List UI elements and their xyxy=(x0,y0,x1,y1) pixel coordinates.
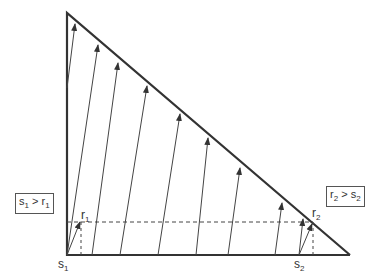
triangle-diagram: r1 r2 s1 s2 xyxy=(0,0,378,275)
arrow-icon xyxy=(228,168,240,255)
arrow-icon xyxy=(67,24,75,88)
triangle-outline xyxy=(67,13,350,255)
vector-arrows xyxy=(67,24,312,255)
label-s1: s1 xyxy=(58,257,69,273)
arrow-icon xyxy=(196,138,208,255)
triangle-edges xyxy=(67,13,350,255)
arrow-icon xyxy=(158,114,180,255)
condition-box-s1-gt-r1: s1 > r1 xyxy=(15,193,54,214)
condition-box-r2-gt-s2: r2 > s2 xyxy=(326,186,365,207)
label-r2: r2 xyxy=(312,206,321,222)
label-s2: s2 xyxy=(294,257,305,273)
arrow-icon xyxy=(120,86,147,255)
box-left-b-sub: 1 xyxy=(45,201,49,210)
box-right-op: > xyxy=(338,188,351,200)
box-right-b-sub: 2 xyxy=(356,194,360,203)
arrow-icon xyxy=(275,203,282,255)
arrow-icon xyxy=(67,45,98,255)
box-left-op: > xyxy=(29,195,42,207)
label-r1: r1 xyxy=(81,208,90,224)
arrow-icon xyxy=(92,63,118,255)
